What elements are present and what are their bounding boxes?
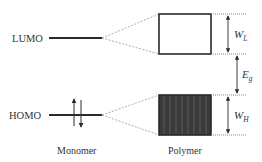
lumo-fan-top-dashed-line <box>102 14 159 38</box>
homo-width-label: WH <box>234 109 249 124</box>
lumo-width-label: WL <box>234 28 247 43</box>
energy-level-diagram: LUMO HOMO WL Eg WH Monomer Polymer <box>0 0 262 162</box>
lumo-band-box <box>159 14 211 54</box>
homo-band-box <box>159 95 211 135</box>
polymer-label: Polymer <box>168 145 203 156</box>
homo-label: HOMO <box>9 110 42 121</box>
monomer-label: Monomer <box>57 145 97 156</box>
lumo-fan-bottom-dashed-line <box>102 38 159 54</box>
homo-fan-bottom-dashed-line <box>102 115 159 135</box>
homo-fan-top-dashed-line <box>102 95 159 115</box>
band-gap-label: Eg <box>241 68 253 83</box>
lumo-label: LUMO <box>12 33 43 44</box>
